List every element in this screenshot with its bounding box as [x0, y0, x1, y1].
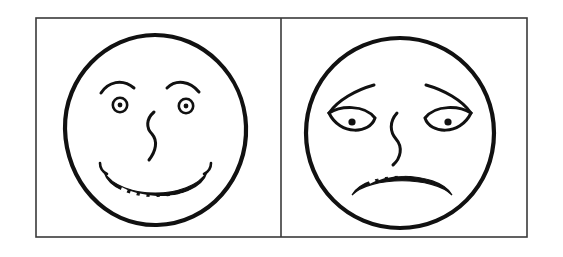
sad-left-pupil: [348, 118, 355, 125]
happy-left-pupil: [118, 103, 123, 108]
tooth: [149, 195, 156, 199]
happy-right-eye: [179, 99, 193, 113]
two-faces-drawing: [0, 0, 563, 257]
image-canvas: A rectangle divided into two panels. The…: [0, 0, 563, 257]
happy-face-panel: [65, 35, 246, 225]
sad-right-pupil: [444, 118, 451, 125]
sad-face-panel: [306, 38, 494, 228]
happy-right-pupil: [184, 104, 189, 109]
sad-face-outline: [306, 38, 494, 228]
tooth: [160, 196, 167, 200]
happy-left-eye: [113, 98, 127, 112]
tooth: [397, 172, 404, 176]
tooth: [408, 172, 415, 176]
